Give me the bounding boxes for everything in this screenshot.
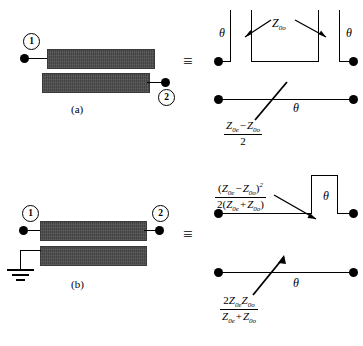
coupled-line-equivalent-circuit-figure: 1 2 (a) ≡ θ θ: [0, 0, 363, 346]
stub-outer-left-a: [230, 10, 231, 62]
coupled-bar-lower-b: [40, 246, 147, 266]
panel-a: 1 2 (a): [0, 0, 180, 130]
lower-line-impedance-numerator-b: 2Z0eZ0o: [220, 294, 258, 309]
stub-outer-right-a: [339, 10, 340, 62]
series-line-left-b: [218, 213, 312, 214]
lower-series-right-dot-b: [349, 268, 358, 277]
port-2-terminal-b: [155, 226, 164, 235]
port-1-lead-b: [27, 230, 41, 231]
port-1-lead-a: [28, 58, 48, 59]
theta-left-label-a: θ: [219, 26, 225, 41]
lower-line-impedance-denominator-b: Z0e+Z0o: [220, 309, 258, 325]
stub-theta-label-b: θ: [323, 189, 329, 204]
stub-vertical-left-b: [311, 175, 312, 214]
caption-b: (b): [71, 278, 84, 290]
stub-impedance-formula-b: (Z0e−Z0o)2 2(Z0e+Z0o): [215, 181, 266, 213]
port-2-terminal-a: [161, 78, 170, 87]
ground-icon: [7, 269, 35, 283]
port-1-label-a: 1: [23, 33, 40, 50]
right-terminal-dot-a: [349, 57, 358, 66]
stub-vertical-right-b: [337, 175, 338, 214]
stub-bottom-connector-a: [251, 61, 319, 62]
equivalence-symbol-a: ≡: [183, 53, 193, 70]
series-right-dot-b: [349, 209, 358, 218]
series-left-dot-b: [214, 209, 223, 218]
port-2-label-a: 2: [158, 89, 175, 106]
lower-line-impedance-formula-b: 2Z0eZ0o Z0e+Z0o: [220, 294, 258, 325]
equivalence-symbol-b: ≡: [183, 226, 193, 243]
ground-lead-vertical-b: [20, 250, 21, 270]
left-terminal-dot-a: [214, 57, 223, 66]
series-impedance-formula-a: Z0e−Z0o 2: [224, 119, 262, 147]
coupled-bar-lower-a: [42, 73, 150, 93]
panel-b-equivalent-circuit: (Z0e−Z0o)2 2(Z0e+Z0o) θ θ: [210, 173, 363, 346]
port-1-label-b: 1: [22, 205, 39, 222]
series-impedance-numerator-a: Z0e−Z0o: [224, 119, 262, 134]
stub-impedance-numerator-b: (Z0e−Z0o)2: [215, 181, 266, 197]
ground-lead-horizontal-b: [20, 250, 41, 251]
panel-b: 1 2 (b): [0, 173, 180, 346]
port-2-label-b: 2: [152, 205, 169, 222]
stub-formula-pointer-b: [272, 193, 324, 225]
caption-a: (a): [71, 103, 83, 115]
panel-a-equivalent-circuit: θ θ Z0o θ Z0e−Z0o 2: [210, 0, 363, 160]
series-impedance-pointer-a: [250, 80, 300, 122]
stub-impedance-arrows-a: [238, 18, 338, 44]
coupled-bar-upper-a: [47, 49, 155, 69]
series-right-dot-a: [349, 95, 358, 104]
lower-line-impedance-pointer-b: [248, 251, 298, 297]
series-impedance-denominator-a: 2: [224, 134, 262, 147]
theta-right-label-a: θ: [346, 26, 352, 41]
stub-impedance-denominator-b: 2(Z0e+Z0o): [215, 197, 266, 213]
lower-series-left-dot-b: [214, 268, 223, 277]
series-left-dot-a: [214, 95, 223, 104]
coupled-bar-upper-b: [40, 221, 147, 241]
stub-top-b: [311, 175, 338, 176]
